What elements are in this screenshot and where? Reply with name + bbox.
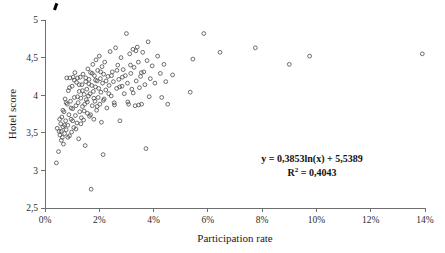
data-point (148, 77, 152, 81)
data-point (103, 60, 107, 64)
y-tick-label: 2,5 (26, 203, 38, 213)
data-point (94, 58, 98, 62)
x-tick-label: 0% (39, 215, 52, 225)
data-point (89, 187, 93, 191)
data-point (58, 133, 62, 137)
data-point (82, 109, 86, 113)
chart-canvas: 0%2%4%6%8%10%12%14% 2,533,544,55 Partici… (0, 0, 445, 253)
data-point (110, 74, 114, 78)
data-point (253, 46, 257, 50)
y-tick-label: 4 (33, 91, 38, 101)
data-point (67, 113, 71, 117)
y-tick-label: 3 (33, 166, 38, 176)
data-point (82, 118, 86, 122)
data-point (139, 75, 143, 79)
y-tick-label: 5 (33, 15, 38, 25)
data-point (97, 87, 101, 91)
data-point (147, 95, 151, 99)
data-point (112, 80, 116, 84)
data-point (158, 71, 162, 75)
data-point (153, 81, 157, 85)
data-point (97, 54, 101, 58)
data-point (90, 104, 94, 108)
data-point (75, 121, 79, 125)
data-point (85, 87, 89, 91)
data-point (287, 62, 291, 66)
data-point (116, 63, 120, 67)
data-point (191, 57, 195, 61)
data-point (83, 144, 87, 148)
data-point (62, 142, 66, 146)
data-point (95, 108, 99, 112)
data-point (130, 87, 134, 91)
data-point (64, 128, 68, 132)
data-point (108, 50, 112, 54)
data-point (76, 101, 80, 105)
data-point (117, 78, 121, 82)
data-point (118, 119, 122, 123)
data-point (100, 120, 104, 124)
data-point (125, 32, 129, 36)
x-tick-label: 12% (362, 215, 380, 225)
y-tick-label: 3,5 (26, 128, 38, 138)
data-point (202, 32, 206, 36)
data-point (160, 96, 164, 100)
data-point (74, 114, 78, 118)
data-point (142, 70, 146, 74)
trendline-equation: y = 0,3853ln(x) + 5,5389 (261, 153, 362, 165)
data-point (86, 67, 90, 71)
data-point (166, 102, 170, 106)
x-tick-label: 14% (416, 215, 434, 225)
data-point (128, 52, 132, 56)
x-tick-label: 4% (147, 215, 160, 225)
data-point (104, 88, 108, 92)
x-tick-label: 10% (308, 215, 326, 225)
data-point (73, 71, 77, 75)
data-point (98, 77, 102, 81)
data-point (115, 68, 119, 72)
data-point (96, 96, 100, 100)
data-point (145, 59, 149, 63)
y-tick-labels: 2,533,544,55 (26, 15, 38, 213)
data-point (77, 83, 81, 87)
data-point (127, 102, 131, 106)
data-point (121, 68, 125, 72)
data-point (82, 93, 86, 97)
data-point (136, 60, 140, 64)
data-point (99, 90, 103, 94)
data-point (129, 71, 133, 75)
data-point (146, 40, 150, 44)
data-point (109, 94, 113, 98)
data-point (105, 106, 109, 110)
data-point (95, 105, 99, 109)
data-point (218, 50, 222, 54)
data-point (308, 54, 312, 58)
data-point (134, 79, 138, 83)
data-point (144, 147, 148, 151)
data-point (101, 81, 105, 85)
data-point (162, 62, 166, 66)
data-point (164, 80, 168, 84)
y-axis-title: Hotel score (6, 89, 18, 140)
data-point (138, 86, 142, 90)
x-axis-title: Participation rate (197, 232, 273, 244)
x-tick-label: 2% (93, 215, 106, 225)
data-point (126, 81, 130, 85)
data-point (135, 45, 139, 49)
data-point (120, 84, 124, 88)
data-point (93, 74, 97, 78)
x-tick-labels: 0%2%4%6%8%10%12%14% (39, 215, 434, 225)
data-point (79, 116, 83, 120)
data-point (131, 91, 135, 95)
data-point (126, 100, 130, 104)
x-tick-label: 8% (256, 215, 269, 225)
data-point (81, 72, 85, 76)
data-point (156, 54, 160, 58)
trendline (55, 0, 426, 10)
data-point (91, 62, 95, 66)
data-point (171, 73, 175, 77)
scatter-chart: 0%2%4%6%8%10%12%14% 2,533,544,55 Partici… (0, 0, 445, 253)
data-point (132, 65, 136, 69)
data-point (139, 71, 143, 75)
data-point (55, 161, 59, 165)
